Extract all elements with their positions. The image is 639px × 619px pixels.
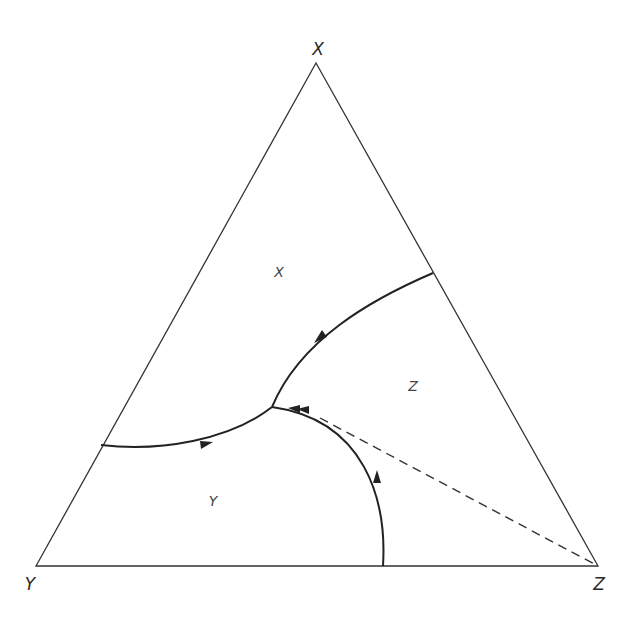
ternary-diagram: X Y Z X Z Y [0,0,639,619]
vertex-label-bottom-right: Z [592,574,605,594]
region-label-z: Z [407,378,418,394]
x-y-boundary-curve [101,407,272,447]
triangle-outline [36,63,598,566]
vertex-label-bottom-left: Y [25,574,37,594]
region-label-y: Y [209,493,219,509]
region-label-x: X [273,264,284,280]
arrow-icon [200,441,213,449]
y-z-boundary-curve [272,407,383,566]
arrow-icon [373,470,381,483]
vertex-label-top: X [311,39,324,59]
